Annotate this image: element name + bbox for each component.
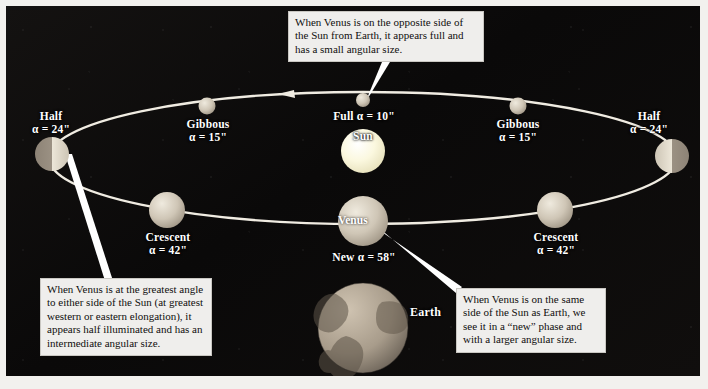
label-half-right-phase: Half: [618, 110, 680, 123]
label-half-left-alpha: α = 24": [20, 123, 82, 136]
callout-full-phase: When Venus is on the opposite side of th…: [288, 11, 484, 62]
label-gibbous-left-alpha: α = 15": [166, 131, 250, 144]
callout-half-phase: When Venus is at the greatest angle to e…: [40, 278, 212, 356]
starfield-scene: Venus Half α = 24" Half α = 24" Gibbous …: [6, 6, 700, 376]
callout-new-phase: When Venus is on the same side of the Su…: [456, 288, 606, 353]
label-crescent-right-alpha: α = 42": [510, 244, 602, 257]
label-half-right-alpha: α = 24": [618, 123, 680, 136]
label-gibbous-right-alpha: α = 15": [476, 131, 560, 144]
label-crescent-right: Crescent α = 42": [510, 231, 602, 257]
label-sun: Sun: [333, 130, 393, 143]
venus-half-right: [655, 139, 689, 173]
label-crescent-left-phase: Crescent: [122, 231, 214, 244]
label-full: Full α = 10": [308, 110, 420, 123]
venus-full: [356, 93, 370, 107]
venus-phases-figure: Venus Half α = 24" Half α = 24" Gibbous …: [0, 0, 708, 389]
label-crescent-left-alpha: α = 42": [122, 244, 214, 257]
callout-leader-bottom-left: [65, 154, 114, 284]
label-new: New α = 58": [306, 251, 422, 264]
venus-gibbous-right: [510, 98, 527, 115]
orbit-direction-arrow: [278, 90, 295, 98]
label-gibbous-left: Gibbous α = 15": [166, 118, 250, 144]
label-half-right: Half α = 24": [618, 110, 680, 136]
venus-gibbous-left: [199, 98, 216, 115]
label-gibbous-left-phase: Gibbous: [166, 118, 250, 131]
label-earth: Earth: [410, 306, 462, 319]
label-half-left: Half α = 24": [20, 110, 82, 136]
label-gibbous-right: Gibbous α = 15": [476, 118, 560, 144]
label-gibbous-right-phase: Gibbous: [476, 118, 560, 131]
venus-crescent-left: [149, 192, 185, 228]
label-crescent-right-phase: Crescent: [510, 231, 602, 244]
venus-body-label: Venus: [338, 214, 368, 226]
venus-half-left: [35, 137, 69, 171]
venus-crescent-right: [537, 192, 573, 228]
label-half-left-phase: Half: [20, 110, 82, 123]
label-crescent-left: Crescent α = 42": [122, 231, 214, 257]
